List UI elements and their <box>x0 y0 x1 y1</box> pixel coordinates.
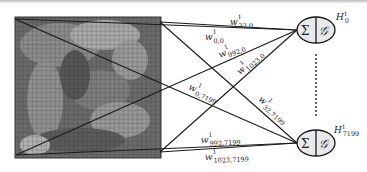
neuron-h0: Σ 𝒢 H10 <box>297 10 349 43</box>
neuron-label-h0: H10 <box>335 10 349 25</box>
edge-w-32-7199 <box>160 22 297 143</box>
neuron-h7199: Σ 𝒢 H17199 <box>297 123 359 156</box>
ellipsis-dots <box>315 54 317 116</box>
weight-label-w-0-0: w10,0 <box>205 28 224 45</box>
weight-labels: w132,0 w10,0 w1992,0 w11023,0 w10,7199 w… <box>186 13 292 165</box>
network-diagram: w132,0 w10,0 w1992,0 w11023,0 w10,7199 w… <box>0 0 367 172</box>
sum-icon: Σ <box>301 137 309 151</box>
weight-label-w-1023-7199: w11023,7199 <box>205 146 249 165</box>
sum-icon: Σ <box>301 24 309 38</box>
input-image-grid <box>15 17 161 158</box>
weight-label-w-992-7199: w1992,7199 <box>201 130 241 148</box>
neuron-label-h7199: H17199 <box>333 123 359 138</box>
